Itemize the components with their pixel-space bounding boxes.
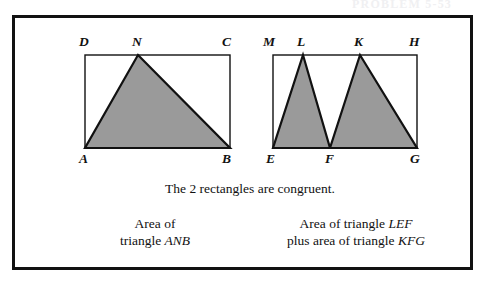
label-F: F <box>325 151 334 167</box>
header-text: PROBLEM 5-53 <box>352 0 482 11</box>
right-area-caption-line2-italic: KFG <box>398 233 425 248</box>
right-area-caption-line2: plus area of triangle KFG <box>252 232 460 249</box>
label-L: L <box>297 34 305 50</box>
right-area-caption-line1-prefix: Area of triangle <box>300 216 389 231</box>
label-D: D <box>79 34 89 50</box>
label-K: K <box>354 34 363 50</box>
cut-off-header: PROBLEM 5-53 <box>352 0 482 11</box>
left-area-caption-line2-prefix: triangle <box>120 233 165 248</box>
label-M: M <box>263 34 275 50</box>
label-N: N <box>132 34 142 50</box>
left-area-caption: Area of triangle ANB <box>62 215 248 249</box>
left-area-caption-line1: Area of <box>62 215 248 232</box>
right-area-caption-line2-prefix: plus area of triangle <box>287 233 398 248</box>
label-C: C <box>222 34 231 50</box>
right-area-caption-line1: Area of triangle LEF <box>252 215 460 232</box>
label-E: E <box>266 151 275 167</box>
label-A: A <box>79 151 88 167</box>
right-area-caption: Area of triangle LEF plus area of triang… <box>252 215 460 249</box>
label-G: G <box>410 151 420 167</box>
label-H: H <box>409 34 420 50</box>
problem-figure-page: PROBLEM 5-53 D N C M L K H A B E F G The… <box>0 0 489 281</box>
congruence-note: The 2 rectangles are congruent. <box>60 180 440 197</box>
left-area-caption-line2: triangle ANB <box>62 232 248 249</box>
left-area-caption-line2-italic: ANB <box>165 233 191 248</box>
label-B: B <box>222 151 231 167</box>
right-area-caption-line1-italic: LEF <box>388 216 412 231</box>
